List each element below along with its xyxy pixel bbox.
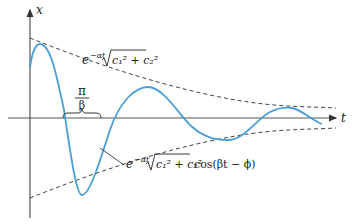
curve-formula-base: e bbox=[126, 157, 133, 171]
upper-formula-base: e bbox=[82, 53, 89, 67]
half-period-denominator: β bbox=[79, 99, 85, 112]
upper-envelope-curve bbox=[30, 38, 336, 108]
upper-formula-radicand: c₁² + c₂² bbox=[112, 54, 158, 67]
half-period-numerator: π bbox=[78, 84, 86, 98]
damped-oscillation-figure: x t π β e −αt c₁² + c₂² e −αt c₁² + c₂² … bbox=[0, 0, 352, 224]
curve-formula-cosine: cos(βt − ϕ) bbox=[194, 158, 256, 171]
upper-envelope-formula: e −αt c₁² + c₂² bbox=[82, 50, 158, 67]
curve-formula: e −αt c₁² + c₂² cos(βt − ϕ) bbox=[126, 154, 256, 171]
x-axis-label: x bbox=[36, 3, 43, 17]
damped-cosine-curve bbox=[30, 44, 322, 195]
diagram-canvas: x t π β e −αt c₁² + c₂² e −αt c₁² + c₂² … bbox=[0, 0, 352, 224]
t-axis-label: t bbox=[341, 111, 346, 125]
curve-label-leader-line bbox=[100, 148, 124, 165]
